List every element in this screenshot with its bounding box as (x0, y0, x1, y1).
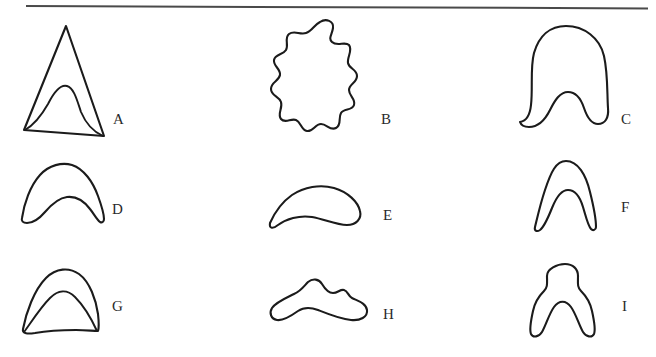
wavy-blob-outline (271, 20, 357, 131)
figure-label-g: G (112, 299, 123, 314)
figure-g (14, 262, 114, 337)
figure-d-drawing (14, 158, 114, 228)
top-horizontal-rule (26, 5, 648, 9)
inverted-u-notch-outline (535, 161, 596, 231)
figure-h (266, 276, 376, 331)
figure-c (516, 20, 621, 135)
figure-c-drawing (516, 20, 621, 135)
figure-b (262, 16, 372, 136)
figure-e-drawing (264, 178, 374, 233)
figure-a-drawing (14, 20, 114, 145)
figure-i-drawing (517, 261, 617, 341)
figure-f-drawing (522, 157, 612, 235)
bell-dome-outline (520, 26, 608, 127)
lobed-inverted-u-outline (530, 264, 595, 336)
figure-h-drawing (266, 276, 376, 331)
figure-label-f: F (621, 200, 630, 215)
figure-label-c: C (621, 112, 631, 127)
figure-f (522, 157, 612, 235)
figure-e (264, 178, 374, 233)
arch-outline (22, 164, 104, 223)
figure-label-d: D (112, 202, 123, 217)
triangle-outline (24, 26, 104, 136)
figure-d (14, 158, 114, 228)
inner-hump-curve (25, 86, 103, 136)
inner-dome-outline (24, 291, 97, 332)
figure-i (517, 261, 617, 341)
wide-blob-outline (271, 280, 367, 321)
figure-label-a: A (113, 112, 124, 127)
crescent-outline (270, 186, 361, 228)
figure-g-drawing (14, 262, 114, 337)
shape-plate: A B C D E F G (0, 0, 656, 357)
figure-label-i: I (622, 299, 627, 314)
figure-a (14, 20, 114, 145)
figure-label-e: E (383, 208, 392, 223)
outer-dome-outline (23, 269, 99, 333)
figure-label-h: H (383, 307, 394, 322)
figure-label-b: B (381, 112, 391, 127)
figure-b-drawing (262, 16, 372, 136)
